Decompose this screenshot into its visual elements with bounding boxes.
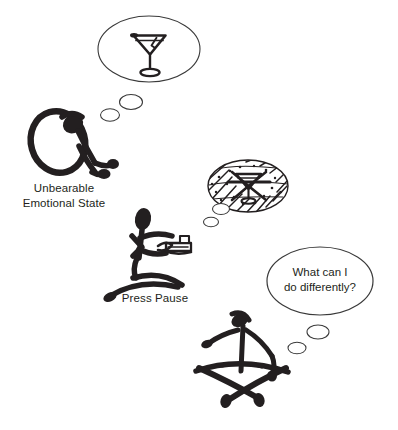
thought-trail-bubbles-3 — [288, 325, 329, 354]
trail-bubble — [307, 325, 329, 339]
upper-arm — [140, 234, 172, 238]
trail-bubble — [204, 217, 219, 227]
illustration-canvas — [0, 0, 398, 430]
foot — [98, 169, 111, 179]
thought-bubble-question-text: What can I do differently? — [262, 265, 378, 295]
label-press-pause: Press Pause — [106, 291, 204, 306]
thought-trail-bubbles-1 — [101, 95, 143, 122]
hand — [107, 159, 119, 169]
thought-bubble-martini — [98, 16, 200, 82]
trail-bubble — [101, 109, 120, 121]
figure-meditating-person — [196, 310, 288, 409]
trail-bubble — [120, 95, 143, 110]
leg-left — [199, 368, 258, 398]
figure-press-pause-person — [102, 207, 191, 304]
right-arm — [246, 330, 272, 356]
left-arm — [209, 330, 238, 343]
trail-bubble — [288, 342, 306, 354]
trail-bubble — [213, 204, 230, 215]
label-unbearable-emotional-state: Unbearable Emotional State — [6, 181, 122, 210]
thought-trail-bubbles-2 — [204, 204, 230, 227]
